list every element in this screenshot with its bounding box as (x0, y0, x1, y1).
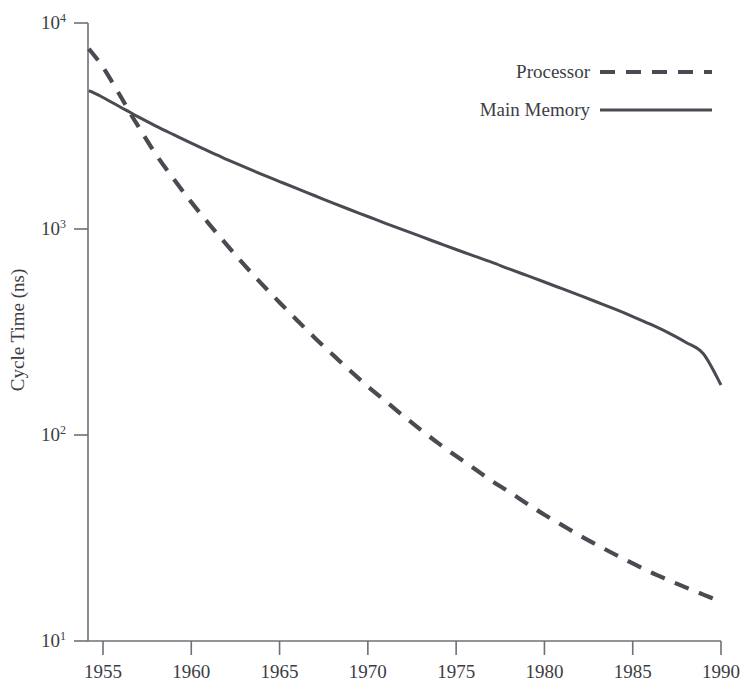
legend-line-samples (600, 72, 712, 110)
x-axis-tick-label: 1975 (437, 661, 475, 683)
chart-series-group (89, 49, 721, 602)
x-axis-tick-label: 1955 (84, 661, 122, 683)
legend-label-processor: Processor (516, 61, 590, 83)
x-axis-tick-label: 1985 (614, 661, 652, 683)
x-axis-tick-label: 1990 (702, 661, 740, 683)
y-axis-tick-label: 104 (0, 12, 66, 34)
x-axis-tick-label: 1965 (261, 661, 299, 683)
legend-label-main-memory: Main Memory (480, 99, 590, 121)
y-axis-tick-label: 101 (0, 630, 66, 652)
series-line-processor (89, 49, 721, 602)
chart-plot-area (0, 0, 749, 700)
y-axis-ticks (74, 23, 88, 641)
y-axis-tick-label: 103 (0, 218, 66, 240)
series-line-main-memory (89, 91, 721, 385)
y-axis-label: Cycle Time (ns) (7, 269, 29, 391)
y-axis-tick-label: 102 (0, 424, 66, 446)
x-axis-tick-label: 1960 (172, 661, 210, 683)
chart-figure: Cycle Time (ns) 104103102101 19551960196… (0, 0, 749, 700)
x-axis-ticks (103, 641, 721, 655)
x-axis-tick-label: 1970 (349, 661, 387, 683)
x-axis-tick-label: 1980 (525, 661, 563, 683)
